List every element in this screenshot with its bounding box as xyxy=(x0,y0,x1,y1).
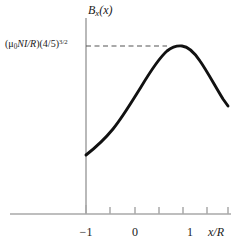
x-axis-label-denominator: R xyxy=(217,225,224,239)
x-tick-label-one: 1 xyxy=(178,225,202,240)
magnetic-field-chart-figure: Bx(x) (μ0NI/R)(4/5)3/2 −1 0 1 x/R xyxy=(0,0,246,247)
peak-value-annotation: (μ0NI/R)(4/5)3/2 xyxy=(5,39,68,51)
peak-value-factor: )(4/5) xyxy=(36,38,59,49)
x-tick-label-minus-one: −1 xyxy=(74,225,98,240)
x-axis-label: x/R xyxy=(208,226,224,238)
field-curve xyxy=(86,46,228,155)
x-axis-tick-marks xyxy=(86,205,228,214)
y-axis-label: Bx(x) xyxy=(88,4,113,18)
peak-value-exponent: 3/2 xyxy=(59,38,68,45)
x-tick-label-zero: 0 xyxy=(123,225,147,240)
y-axis-label-argument: (x) xyxy=(99,3,112,17)
peak-value-middle: NI/R xyxy=(17,38,36,49)
